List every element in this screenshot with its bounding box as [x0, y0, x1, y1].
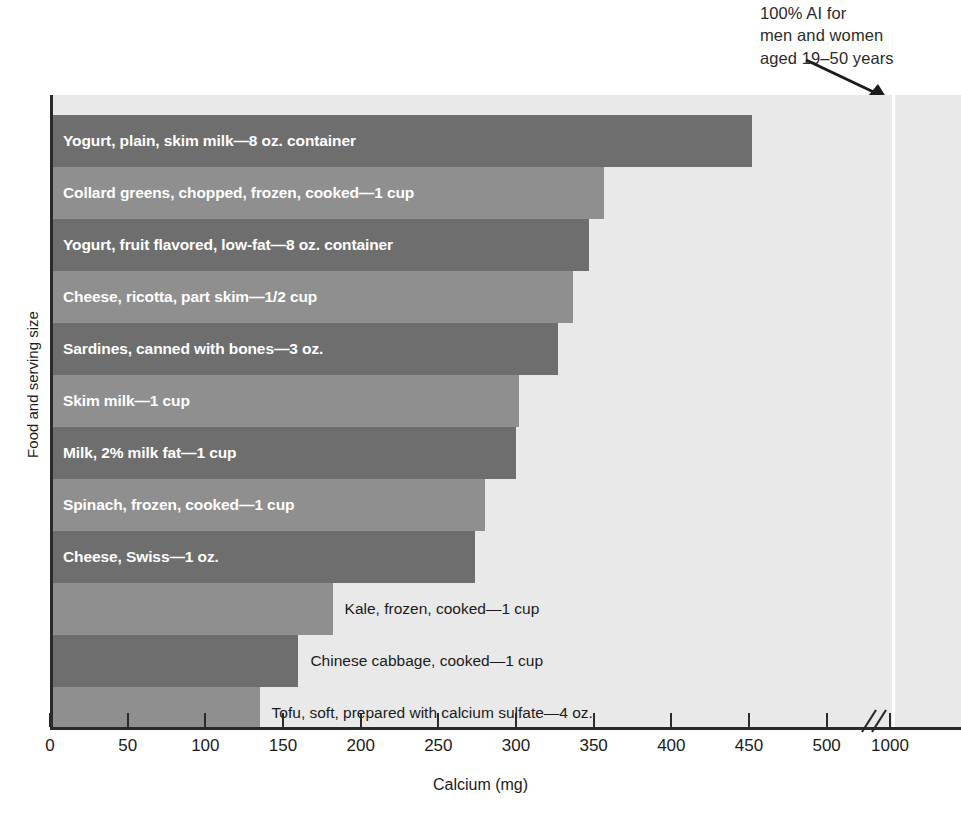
annotation-line-1: 100% AI for: [760, 2, 960, 24]
bar-row: Skim milk—1 cup: [53, 375, 961, 427]
bar-row: Kale, frozen, cooked—1 cup: [53, 583, 961, 635]
y-axis-title: Food and serving size: [24, 265, 41, 505]
bar-label: Kale, frozen, cooked—1 cup: [345, 583, 540, 635]
bar-row: Chinese cabbage, cooked—1 cup: [53, 635, 961, 687]
bar-label: Sardines, canned with bones—3 oz.: [63, 323, 323, 375]
bar-row: Spinach, frozen, cooked—1 cup: [53, 479, 961, 531]
x-axis-tick: [889, 713, 891, 727]
bar: [53, 687, 260, 727]
x-axis-line: [50, 727, 961, 730]
x-axis-tick: [204, 713, 206, 727]
x-axis-tick-label: 450: [735, 736, 763, 756]
bar-row: Milk, 2% milk fat—1 cup: [53, 427, 961, 479]
x-axis-tick: [127, 713, 129, 727]
x-axis-tick: [282, 713, 284, 727]
x-axis-title: Calcium (mg): [0, 776, 961, 794]
bar-label: Cheese, Swiss—1 oz.: [63, 531, 219, 583]
x-axis-tick: [360, 713, 362, 727]
x-axis-tick-label: 400: [657, 736, 685, 756]
x-axis-tick-label: 350: [579, 736, 607, 756]
x-axis-tick-label: 200: [346, 736, 374, 756]
x-axis-tick-label: 0: [45, 736, 54, 756]
bar: [53, 583, 333, 635]
x-axis-tick-label: 300: [502, 736, 530, 756]
axis-break-icon: [859, 708, 889, 734]
bar-label: Chinese cabbage, cooked—1 cup: [310, 635, 543, 687]
x-axis-tick-label: 500: [812, 736, 840, 756]
bar-series: Yogurt, plain, skim milk—8 oz. container…: [53, 115, 961, 727]
x-axis-tick-label: 1000: [871, 736, 909, 756]
x-axis-tick: [670, 713, 672, 727]
bar-label: Spinach, frozen, cooked—1 cup: [63, 479, 294, 531]
x-axis-tick: [437, 713, 439, 727]
x-axis-tick: [515, 713, 517, 727]
bar-label: Collard greens, chopped, frozen, cooked—…: [63, 167, 414, 219]
x-axis-tick-label: 150: [269, 736, 297, 756]
x-axis-tick-label: 250: [424, 736, 452, 756]
bar-label: Yogurt, fruit flavored, low-fat—8 oz. co…: [63, 219, 393, 271]
x-axis-tick-label: 50: [118, 736, 137, 756]
chart-figure: 100% AI for men and women aged 19–50 yea…: [0, 0, 961, 814]
x-axis-tick: [748, 713, 750, 727]
bar-label: Tofu, soft, prepared with calcium sulfat…: [272, 687, 593, 727]
bar-row: Yogurt, fruit flavored, low-fat—8 oz. co…: [53, 219, 961, 271]
annotation-line-2: men and women: [760, 24, 960, 46]
bar-row: Collard greens, chopped, frozen, cooked—…: [53, 167, 961, 219]
bar-row: Cheese, Swiss—1 oz.: [53, 531, 961, 583]
bar-label: Cheese, ricotta, part skim—1/2 cup: [63, 271, 317, 323]
bar-label: Yogurt, plain, skim milk—8 oz. container: [63, 115, 356, 167]
bar-row: Yogurt, plain, skim milk—8 oz. container: [53, 115, 961, 167]
bar: [53, 635, 298, 687]
x-axis-tick: [593, 713, 595, 727]
x-axis-tick: [49, 713, 51, 727]
reference-line: [892, 95, 895, 727]
bar-row: Cheese, ricotta, part skim—1/2 cup: [53, 271, 961, 323]
bar-row: Sardines, canned with bones—3 oz.: [53, 323, 961, 375]
x-axis-tick-label: 100: [191, 736, 219, 756]
x-axis-tick: [826, 713, 828, 727]
bar-label: Skim milk—1 cup: [63, 375, 190, 427]
plot-area: Yogurt, plain, skim milk—8 oz. container…: [50, 95, 961, 727]
bar-label: Milk, 2% milk fat—1 cup: [63, 427, 236, 479]
